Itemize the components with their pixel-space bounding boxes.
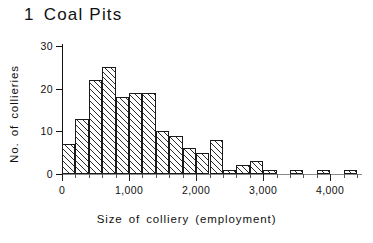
histogram-bar: [290, 170, 303, 174]
histogram-bar: [129, 93, 142, 174]
plot-area: [62, 46, 357, 174]
histogram-bar: [223, 170, 236, 174]
x-axis-minor-tick: [236, 174, 237, 178]
x-axis-minor-tick: [357, 174, 358, 178]
x-axis-minor-tick: [223, 174, 224, 178]
x-axis-major-tick: [263, 174, 264, 181]
y-axis-tick: [56, 89, 62, 90]
figure-title-text: Coal Pits: [44, 5, 123, 24]
x-axis-title: Size of colliery (employment): [0, 213, 373, 225]
x-axis-minor-tick: [75, 174, 76, 178]
y-axis-tick: [56, 131, 62, 132]
x-axis-minor-tick: [290, 174, 291, 178]
x-axis-minor-tick: [116, 174, 117, 178]
y-axis-title: No. of collieries: [8, 54, 20, 174]
histogram-bar: [62, 144, 75, 174]
y-axis-tick-label: 10: [41, 125, 53, 137]
histogram-bar: [156, 131, 169, 174]
x-axis-tick-label: 1,000: [115, 184, 143, 196]
histogram-bar: [236, 165, 249, 174]
histogram-bar: [169, 136, 182, 174]
x-axis-tick-label: 3,000: [249, 184, 277, 196]
x-axis-major-tick: [330, 174, 331, 181]
x-axis-tick-label: 0: [59, 184, 65, 196]
histogram-bar: [89, 80, 102, 174]
x-axis-minor-tick: [210, 174, 211, 178]
x-axis-minor-tick: [183, 174, 184, 178]
histogram-bar: [196, 153, 209, 174]
x-axis-minor-tick: [156, 174, 157, 178]
histogram-bar: [317, 170, 330, 174]
histogram-bar: [116, 97, 129, 174]
x-axis-major-tick: [129, 174, 130, 181]
x-axis-minor-tick: [102, 174, 103, 178]
x-axis-major-tick: [62, 174, 63, 181]
x-axis-minor-tick: [89, 174, 90, 178]
figure-root: 1Coal Pits 0102030 No. of collieries Siz…: [0, 0, 373, 243]
histogram-bar: [263, 170, 276, 174]
histogram-bar: [344, 170, 357, 174]
x-axis-minor-tick: [317, 174, 318, 178]
x-axis-minor-tick: [277, 174, 278, 178]
x-axis-minor-tick: [250, 174, 251, 178]
y-axis-tick: [56, 46, 62, 47]
histogram-bar: [142, 93, 155, 174]
x-axis-minor-tick: [169, 174, 170, 178]
x-axis-tick-label: 2,000: [182, 184, 210, 196]
histogram-bar: [102, 67, 115, 174]
x-axis-tick-label: 4,000: [316, 184, 344, 196]
x-axis-minor-tick: [344, 174, 345, 178]
histogram-bar: [250, 161, 263, 174]
y-axis-tick-label: 0: [47, 168, 53, 180]
x-axis-minor-tick: [142, 174, 143, 178]
y-axis-tick-label: 20: [41, 83, 53, 95]
y-axis-tick-label: 30: [41, 40, 53, 52]
histogram-bar: [210, 140, 223, 174]
histogram-bar: [75, 119, 88, 174]
histogram-bar: [183, 148, 196, 174]
x-axis-minor-tick: [303, 174, 304, 178]
x-axis-major-tick: [196, 174, 197, 181]
